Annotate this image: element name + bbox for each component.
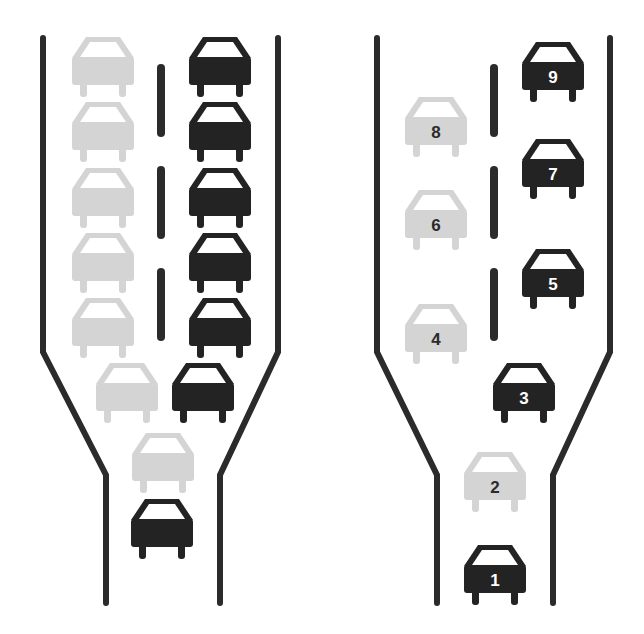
car-body [189,318,251,346]
car-body [189,122,251,150]
car-number-label: 6 [431,216,440,235]
car-body [189,57,251,85]
car-body [189,253,251,281]
car-number-label: 9 [548,68,557,87]
car-body [72,188,134,216]
car-body [131,519,193,547]
car-body [72,57,134,85]
car-number-label: 5 [548,275,557,294]
zipper-merge-diagram: 987654321 [0,0,644,634]
car-body [72,122,134,150]
car-number-label: 8 [431,123,440,142]
car-number-label: 1 [490,571,499,590]
car-number-label: 3 [519,389,528,408]
car-number-label: 2 [490,478,499,497]
car-number-label: 7 [548,165,557,184]
car-body [96,383,158,411]
car-body [189,188,251,216]
car-body [132,453,194,481]
car-body [72,253,134,281]
car-body [172,383,234,411]
car-body [72,318,134,346]
car-number-label: 4 [431,330,441,349]
